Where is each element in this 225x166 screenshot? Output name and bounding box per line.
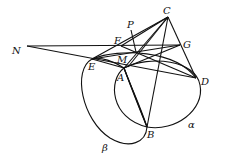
label-G: G <box>183 40 191 50</box>
arc-AB <box>124 68 147 127</box>
label-E: E <box>88 62 95 72</box>
diagram-lines <box>0 0 225 166</box>
line-NG <box>27 45 180 46</box>
label-A: A <box>117 73 124 83</box>
pointer-P <box>131 30 136 52</box>
label-B: B <box>147 130 154 140</box>
label-P: P <box>127 20 134 30</box>
label-C: C <box>163 6 171 16</box>
label-F: F <box>114 36 121 46</box>
label-M: M <box>117 55 127 65</box>
label-N: N <box>12 46 21 56</box>
label-alpha: α <box>188 120 195 130</box>
geometry-diagram: C P F G N M E A D B α β <box>0 0 225 166</box>
line-CD <box>168 17 196 78</box>
label-D: D <box>201 77 209 87</box>
label-beta: β <box>102 143 108 153</box>
